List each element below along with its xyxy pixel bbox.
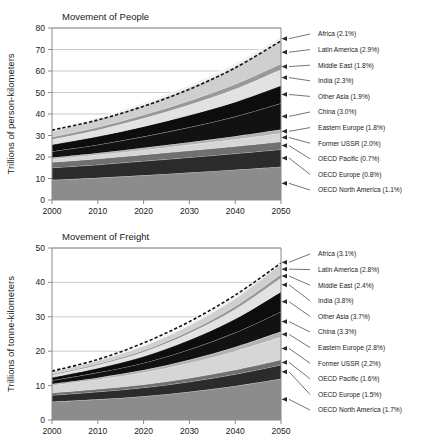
legend-label: Eastern Europe (2.8%) [318, 344, 385, 352]
legend-entry: India (2.3%) [282, 75, 354, 85]
legend-leader-arrow [282, 50, 288, 55]
legend-leader-line [289, 78, 310, 81]
legend-leader-line [289, 276, 310, 285]
legend-leader-arrow [282, 282, 288, 287]
legend-entry: OECD North America (1.7%) [282, 397, 402, 414]
legend-entry: Africa (2.1%) [282, 30, 357, 41]
legend-label: OECD Pacific (1.6%) [318, 375, 380, 383]
x-tick-label: 2030 [180, 426, 199, 436]
legend-label: Africa (2.1%) [318, 30, 356, 38]
legend-label: Other Asia (3.7%) [318, 313, 370, 321]
y-tick-label: 10 [36, 174, 46, 184]
legend-label: Other Asia (1.9%) [318, 93, 370, 101]
y-tick-label: 20 [36, 346, 46, 356]
legend-leader-line [289, 285, 310, 301]
x-tick-label: 2020 [134, 206, 153, 216]
people-chart-svg: Movement of PeopleTrillions of person-ki… [0, 0, 422, 220]
chart-panel-freight: Movement of FreightTrillions of tonne-ki… [0, 220, 422, 440]
legend-leader-arrow [282, 332, 288, 337]
legend-leader-line [289, 302, 310, 317]
y-tick-label: 40 [36, 109, 46, 119]
legend-leader-line [289, 94, 310, 96]
chart-title: Movement of Freight [62, 231, 149, 242]
legend-leader-arrow [282, 143, 288, 148]
x-tick-label: 2050 [272, 426, 291, 436]
legend-leader-arrow [282, 156, 288, 161]
legend-leader-arrow [282, 267, 288, 272]
x-tick-label: 2020 [134, 426, 153, 436]
legend-leader-arrow [282, 75, 288, 80]
legend-label: Africa (3.1%) [318, 250, 356, 258]
legend-leader-arrow [282, 129, 288, 134]
legend-leader-line [289, 183, 310, 190]
legend-entry: China (3.0%) [282, 108, 357, 118]
legend-leader-arrow [282, 299, 288, 304]
legend-leader-line [289, 362, 310, 378]
legend-leader-arrow [282, 92, 288, 97]
legend-label: Eastern Europe (1.8%) [318, 124, 385, 132]
legend-entry: Other Asia (1.9%) [282, 92, 371, 101]
stacked-areas [52, 260, 281, 420]
legend-entry: China (3.3%) [282, 319, 357, 336]
legend-label: Middle East (1.8%) [318, 62, 374, 70]
legend-leader-line [289, 65, 310, 66]
legend-label: Former USSR (2.0%) [318, 140, 381, 148]
legend-leader-line [289, 334, 310, 347]
legend-label: OECD Europe (1.5%) [318, 391, 381, 399]
chart-panel-people: Movement of PeopleTrillions of person-ki… [0, 0, 422, 220]
chart-title: Movement of People [62, 11, 149, 22]
legend-label: OECD Europe (0.8%) [318, 171, 381, 179]
legend-entry: OECD Europe (1.5%) [282, 369, 382, 398]
legend-label: Middle East (2.4%) [318, 282, 374, 290]
freight-plot-group: Movement of FreightTrillions of tonne-ki… [5, 231, 402, 436]
legend-leader-line [289, 34, 310, 39]
x-tick-label: 2030 [180, 206, 199, 216]
legend-leader-arrow [282, 319, 288, 324]
legend-leader-line [289, 137, 310, 143]
legend-leader-arrow [282, 274, 288, 279]
figure-root: Movement of PeopleTrillions of person-ki… [0, 0, 422, 440]
legend-leader-arrow [282, 346, 288, 351]
legend-label: OECD North America (1.1%) [318, 186, 402, 194]
y-tick-label: 20 [36, 152, 46, 162]
legend-label: India (2.3%) [318, 77, 354, 85]
legend-leader-line [289, 112, 310, 116]
y-tick-label: 50 [36, 243, 46, 253]
people-plot-group: Movement of PeopleTrillions of person-ki… [5, 11, 402, 216]
legend-label: India (3.8%) [318, 297, 354, 305]
legend-leader-line [289, 348, 310, 363]
y-tick-label: 30 [36, 131, 46, 141]
x-tick-label: 2010 [88, 206, 107, 216]
legend-leader-line [289, 158, 310, 174]
freight-chart-svg: Movement of FreightTrillions of tonne-ki… [0, 220, 422, 440]
legend-label: Former USSR (2.2%) [318, 360, 381, 368]
legend-label: Latin America (2.8%) [318, 266, 379, 274]
legend-leader-arrow [282, 181, 288, 186]
legend-leader-arrow [282, 397, 288, 402]
y-axis-label: Trillions of person-kilometers [5, 53, 16, 174]
legend-leader-arrow [282, 360, 288, 365]
legend-label: China (3.0%) [318, 108, 356, 116]
legend-label: OECD Pacific (0.7%) [318, 155, 380, 163]
legend-leader-arrow [282, 64, 288, 69]
stacked-areas [52, 37, 281, 200]
legend-label: OECD North America (1.7%) [318, 406, 402, 414]
y-tick-label: 50 [36, 88, 46, 98]
legend-leader-line [289, 146, 310, 159]
legend-entry: Latin America (2.9%) [282, 46, 380, 55]
y-axis-label: Trillions of tonne-kilometers [5, 276, 16, 392]
legend-leader-arrow [282, 135, 288, 140]
legend-entry: Eastern Europe (1.8%) [282, 124, 386, 134]
x-tick-label: 2010 [88, 426, 107, 436]
x-tick-label: 2040 [226, 206, 245, 216]
legend-leader-line [289, 128, 310, 132]
legend-leader-line [289, 322, 310, 332]
legend-entry: Former USSR (2.0%) [282, 135, 381, 148]
y-tick-label: 60 [36, 66, 46, 76]
x-tick-label: 2000 [43, 206, 62, 216]
y-tick-label: 10 [36, 381, 46, 391]
y-tick-label: 0 [40, 415, 45, 425]
legend-label: China (3.3%) [318, 328, 356, 336]
legend-leader-line [289, 372, 310, 395]
x-tick-label: 2050 [272, 206, 291, 216]
